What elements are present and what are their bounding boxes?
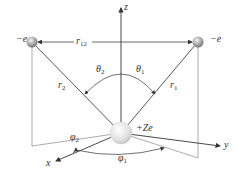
atom-diagram (0, 0, 244, 171)
electron-right (193, 37, 204, 48)
electron-left (27, 37, 38, 48)
theta2-arc (85, 74, 121, 94)
radius-line-r1 (121, 44, 196, 133)
y-axis (121, 133, 220, 146)
r1-label: r1 (170, 80, 177, 92)
electron-right-label: −e (210, 34, 221, 44)
y-axis-label: y (224, 140, 228, 150)
z-axis-label: z (124, 2, 128, 12)
plane-line-right (121, 133, 198, 158)
electron-left-label: −e (16, 34, 27, 44)
r12-label: r12 (76, 36, 87, 48)
radius-line-r2 (34, 44, 121, 133)
theta1-arc (121, 74, 155, 94)
x-axis-label: x (46, 158, 50, 168)
phi2-label: φ2 (70, 132, 79, 144)
r2-label: r2 (58, 80, 65, 92)
theta1-label: θ1 (136, 64, 144, 76)
theta2-label: θ2 (96, 64, 104, 76)
nucleus-label: +Ze (136, 123, 153, 133)
phi1-label: φ1 (118, 153, 127, 165)
nucleus (110, 122, 132, 144)
